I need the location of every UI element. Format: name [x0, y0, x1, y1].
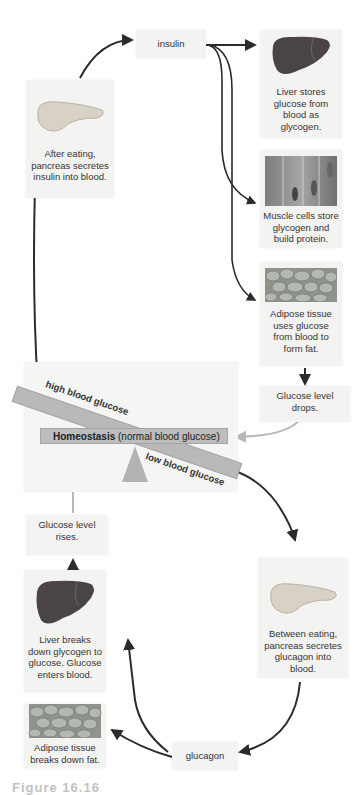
- between-eating-text: Between eating, pancreas secretes glucag…: [258, 628, 348, 674]
- homeostasis-title: Homeostasis: [53, 431, 115, 442]
- fulcrum-icon: [122, 446, 148, 482]
- insulin-label: insulin: [136, 30, 206, 58]
- homeostasis-panel: high blood glucose low blood glucose Hom…: [24, 362, 238, 492]
- pancreas-icon: [265, 578, 341, 618]
- muscle-text: Muscle cells store glycogen and build pr…: [260, 210, 342, 245]
- liver-icon: [33, 578, 97, 628]
- pancreas-icon: [34, 96, 106, 136]
- after-eating-text: After eating, pancreas secretes insulin …: [26, 148, 114, 183]
- adipose-tissue-icon: [265, 268, 337, 302]
- after-eating-box: After eating, pancreas secretes insulin …: [26, 80, 114, 198]
- adipose-breaks-text: Adipose tissue breaks down fat.: [24, 742, 106, 765]
- homeostasis-bar: Homeostasis (normal blood glucose): [40, 428, 228, 444]
- glucagon-label: glucagon: [172, 742, 238, 770]
- muscle-tissue-icon: [265, 156, 337, 206]
- glucose-rises-box: Glucose level rises.: [26, 515, 108, 555]
- glucose-drops-text: Glucose level drops.: [260, 390, 350, 413]
- adipose-tissue-icon: [25, 704, 105, 738]
- liver-breaks-box: Liver breaks down glycogen to glucose. G…: [24, 570, 106, 692]
- liver-stores-text: Liver stores glucose from blood as glyco…: [260, 86, 342, 132]
- adipose-uses-text: Adipose tissue uses glucose from blood t…: [260, 308, 342, 354]
- liver-stores-box: Liver stores glucose from blood as glyco…: [260, 30, 342, 138]
- insulin-box: insulin: [136, 30, 206, 58]
- liver-breaks-text: Liver breaks down glycogen to glucose. G…: [24, 634, 106, 680]
- between-eating-box: Between eating, pancreas secretes glucag…: [258, 558, 348, 678]
- glucose-drops-box: Glucose level drops.: [260, 386, 350, 422]
- figure-caption: Figure 16.16: [12, 780, 100, 795]
- homeostasis-subtitle: (normal blood glucose): [115, 431, 220, 442]
- adipose-uses-box: Adipose tissue uses glucose from blood t…: [260, 262, 342, 366]
- adipose-breaks-box: Adipose tissue breaks down fat.: [24, 704, 106, 768]
- muscle-box: Muscle cells store glycogen and build pr…: [260, 150, 342, 248]
- glucose-rises-text: Glucose level rises.: [26, 519, 108, 542]
- liver-icon: [269, 34, 333, 78]
- glucagon-box: glucagon: [172, 742, 238, 770]
